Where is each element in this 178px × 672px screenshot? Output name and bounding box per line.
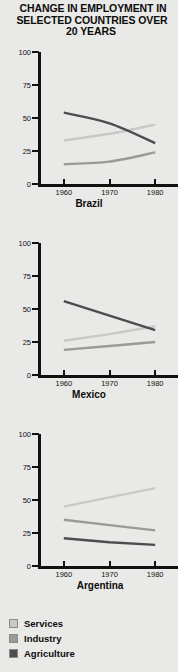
plot-area: 1007550250196019701980 — [0, 239, 178, 389]
series-lines — [0, 430, 178, 580]
series-line-services — [64, 326, 155, 341]
series-line-services — [64, 488, 155, 507]
chart-panel-mexico: 1007550250196019701980Mexico — [0, 239, 178, 414]
plot-area: 1007550250196019701980 — [0, 48, 178, 198]
chart-panel-brazil: 1007550250196019701980Brazil — [0, 48, 178, 223]
legend-item-agriculture: Agriculture — [9, 646, 75, 661]
series-line-industry — [64, 342, 155, 350]
chart-panel-argentina: 1007550250196019701980Argentina — [0, 430, 178, 605]
series-line-agriculture — [64, 301, 155, 330]
country-label-mexico: Mexico — [0, 389, 178, 400]
legend-label: Agriculture — [24, 648, 75, 659]
chart-legend: ServicesIndustryAgriculture — [9, 616, 75, 661]
legend-item-industry: Industry — [9, 631, 75, 646]
legend-item-services: Services — [9, 616, 75, 631]
legend-label: Industry — [24, 633, 61, 644]
country-label-argentina: Argentina — [0, 580, 178, 591]
series-line-industry — [64, 520, 155, 531]
series-line-agriculture — [64, 538, 155, 545]
plot-area: 1007550250196019701980 — [0, 430, 178, 580]
series-line-industry — [64, 152, 155, 164]
legend-swatch-agriculture — [9, 649, 18, 658]
legend-swatch-services — [9, 619, 18, 628]
page-title-line-3: 20 YEARS — [0, 26, 178, 38]
country-label-brazil: Brazil — [0, 198, 178, 209]
page-title-line-1: CHANGE IN EMPLOYMENT IN — [4, 3, 178, 15]
legend-label: Services — [24, 618, 63, 629]
page-title: CHANGE IN EMPLOYMENT IN SELECTED COUNTRI… — [0, 3, 178, 38]
series-lines — [0, 239, 178, 389]
series-lines — [0, 48, 178, 198]
legend-swatch-industry — [9, 634, 18, 643]
